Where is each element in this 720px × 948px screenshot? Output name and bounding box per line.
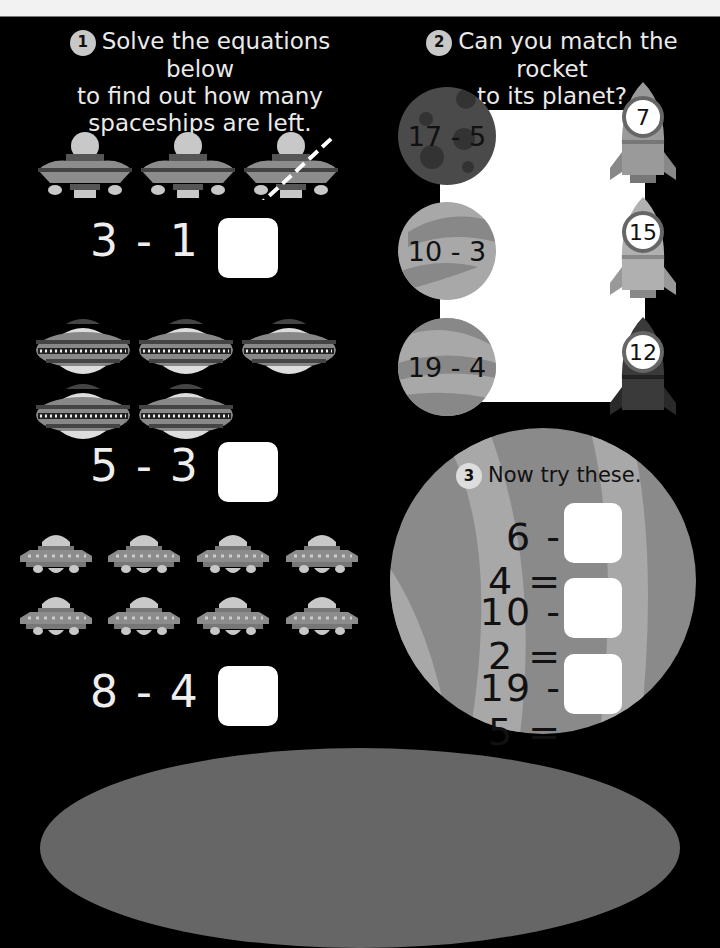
ufo-group-3 [30,128,350,200]
page-top-edge [0,0,720,17]
planet-label: 19 - 4 [398,352,496,383]
horizon-planet [40,748,680,948]
heading-text: Now try these. [488,463,641,487]
section3-heading: 3Now try these. [456,463,641,489]
ufo-group-5 [36,312,346,442]
ufo-group-8 [14,532,364,672]
s3-equation-2: 10 - 2 = [440,590,562,678]
rocket-number: 15 [622,211,664,253]
answer-box-1[interactable] [218,218,278,278]
rocket-2[interactable]: 15 [608,195,678,305]
heading-line: Solve the equations below [102,28,331,82]
step-badge-2: 2 [426,30,452,56]
rocket-1[interactable]: 7 [608,80,678,190]
planet-label: 17 - 5 [398,121,496,152]
rocket-3[interactable]: 12 [608,315,678,425]
rocket-number: 12 [622,331,664,373]
s3-answer-box-2[interactable] [564,578,622,638]
planet-label: 10 - 3 [398,236,496,267]
step-badge-3: 3 [456,463,482,489]
planet-1[interactable]: 17 - 5 [398,87,496,185]
answer-box-3[interactable] [218,666,278,726]
answer-box-2[interactable] [218,442,278,502]
step-badge-1: 1 [70,30,96,56]
rocket-number: 7 [622,96,664,138]
heading-line: Can you match the rocket [458,28,677,82]
section1-heading: 1Solve the equations below to find out h… [40,28,360,137]
s3-answer-box-1[interactable] [564,503,622,563]
heading-line: to find out how many [40,83,360,110]
s3-answer-box-3[interactable] [564,654,622,714]
planet-3[interactable]: 19 - 4 [398,318,496,416]
s3-equation-3: 19 - 5 = [440,666,562,754]
planet-2[interactable]: 10 - 3 [398,202,496,300]
